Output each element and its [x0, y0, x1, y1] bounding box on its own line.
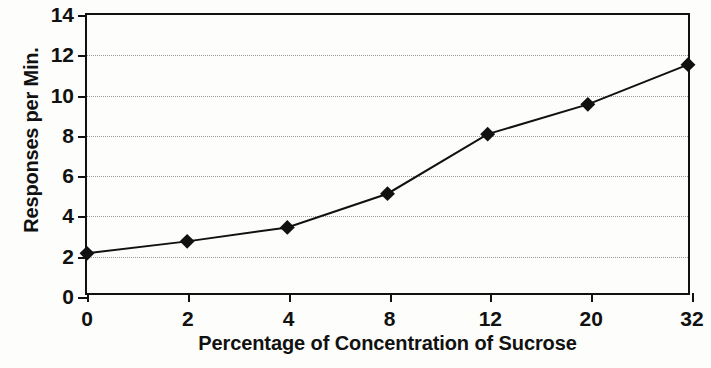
y-axis-tick-label: 0: [62, 285, 74, 309]
x-axis-tick-label: 12: [479, 307, 502, 331]
x-axis-tick-label: 0: [81, 307, 93, 331]
data-point-marker: [280, 220, 295, 235]
y-axis-tick-label: 4: [62, 204, 74, 228]
y-axis-tick-label: 8: [62, 124, 74, 148]
x-axis-tick-label: 20: [579, 307, 602, 331]
data-point-marker: [681, 57, 696, 72]
y-axis-tick: [78, 96, 87, 98]
y-axis-tick-label: 10: [51, 84, 74, 108]
y-axis-tick-label: 14: [51, 3, 74, 27]
x-axis-tick: [87, 293, 89, 302]
y-axis-tick: [78, 216, 87, 218]
x-axis-tick: [490, 293, 492, 302]
y-axis-tick: [78, 176, 87, 178]
x-axis-tick: [692, 293, 694, 302]
x-axis-tick-label: 32: [680, 307, 703, 331]
data-series-line: [87, 15, 688, 293]
y-axis-tick-label: 12: [51, 43, 74, 67]
chart-figure: Responses per Min. 024681012140248122032…: [0, 0, 711, 368]
plot-area: 024681012140248122032: [85, 13, 690, 295]
y-axis-tick-label: 2: [62, 245, 74, 269]
data-point-marker: [480, 127, 495, 142]
x-axis-tick: [390, 293, 392, 302]
data-point-marker: [580, 97, 595, 112]
x-axis-tick: [591, 293, 593, 302]
y-axis-tick: [78, 136, 87, 138]
y-axis-title: Responses per Min.: [15, 5, 47, 275]
x-axis-tick-label: 2: [182, 307, 194, 331]
x-axis-tick-label: 4: [283, 307, 295, 331]
y-axis-tick: [78, 297, 87, 299]
y-axis-tick: [78, 15, 87, 17]
series-line: [87, 65, 688, 254]
data-point-marker: [380, 186, 395, 201]
x-axis-tick-label: 8: [384, 307, 396, 331]
x-axis-tick: [289, 293, 291, 302]
x-axis-tick: [188, 293, 190, 302]
data-point-marker: [180, 234, 195, 249]
y-axis-tick: [78, 55, 87, 57]
x-axis-title: Percentage of Concentration of Sucrose: [85, 332, 690, 355]
y-axis-tick-label: 6: [62, 164, 74, 188]
